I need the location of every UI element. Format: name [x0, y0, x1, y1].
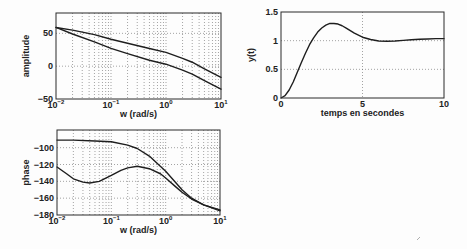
x-tick-label: 100 [159, 99, 173, 110]
y-tick-label: 1.5 [265, 7, 278, 17]
y-tick-label: −100 [34, 143, 54, 153]
phase-y-tick-labels: −100−120−140−160−180 [34, 143, 54, 220]
phase-curves [57, 140, 220, 211]
x-tick-label: 101 [213, 215, 227, 226]
phase-curve-lower [57, 166, 220, 211]
x-tick-label: 10 [439, 99, 449, 109]
x-tick-label: 10−1 [103, 215, 121, 226]
step-response-x-axis-label: temps en secondes [321, 108, 405, 118]
y-tick-label: 0 [273, 93, 278, 103]
amplitude-curves [56, 27, 221, 89]
amplitude-curve-lower [56, 27, 221, 89]
x-tick-label: 10−1 [103, 99, 121, 110]
y-tick-label: 50 [43, 28, 53, 38]
y-tick-label: 0.5 [265, 64, 278, 74]
y-tick-label: −120 [34, 160, 54, 170]
y-tick-label: 0 [48, 61, 53, 71]
y-tick-label: −160 [34, 193, 54, 203]
y-tick-label: −50 [38, 94, 53, 104]
x-tick-label: 101 [214, 99, 228, 110]
phase-axes-frame [57, 130, 220, 215]
amplitude-y-tick-labels: 500−50 [38, 28, 53, 104]
figure: 10−210−1100101 500−50 w (rad/s) amplitud… [0, 0, 467, 249]
phase-x-axis-label: w (rad/s) [119, 225, 157, 235]
x-tick-label: 100 [159, 215, 173, 226]
y-tick-label: 1 [273, 36, 278, 46]
amplitude-curve-upper [56, 27, 221, 77]
amplitude-grid [56, 13, 221, 99]
amplitude-plot: 10−210−1100101 500−50 w (rad/s) amplitud… [21, 13, 228, 119]
step-response-y-tick-labels: 1.510.50 [265, 7, 278, 103]
amplitude-axes-frame [56, 13, 221, 99]
x-tick-label: 0 [278, 99, 283, 109]
scan-mark [417, 237, 420, 240]
y-tick-label: −180 [34, 210, 54, 220]
figure-canvas: 10−210−1100101 500−50 w (rad/s) amplitud… [0, 0, 467, 249]
amplitude-x-axis-label: w (rad/s) [119, 109, 157, 119]
step-response-y-axis-label: y(t) [246, 48, 256, 62]
phase-curve-upper [57, 140, 220, 210]
phase-y-axis-label: phase [21, 159, 31, 185]
y-tick-label: −140 [34, 176, 54, 186]
amplitude-y-axis-label: amplitude [21, 35, 31, 78]
phase-grid [57, 130, 220, 215]
step-response-plot: 0510 1.510.50 temps en secondes y(t) [246, 7, 449, 118]
phase-plot: 10−210−1100101 −100−120−140−160−180 w (r… [21, 130, 227, 235]
